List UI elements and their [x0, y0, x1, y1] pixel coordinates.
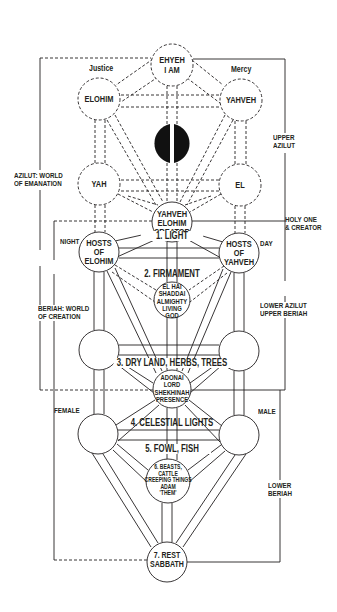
label-day: DAY: [260, 240, 273, 248]
path-label-light: 1. LIGHT: [141, 231, 203, 241]
label-female: FEMALE: [54, 407, 80, 415]
elohim-label: ELOHIM: [80, 94, 119, 104]
ehyeh-label: EHYEH I AM: [153, 55, 192, 74]
label-azilut-world: AZILUT: WORLD OF EMANATION: [14, 172, 63, 188]
label-holy-one: HOLY ONE & CREATOR: [285, 216, 322, 232]
hosts-elohim-label: HOSTS OF ELOHIM: [80, 238, 119, 266]
path-label-dry-land: 3. DRY LAND, HERBS, TREES: [114, 358, 231, 368]
label-justice: Justice: [89, 64, 113, 73]
label-night: NIGHT: [60, 238, 79, 246]
path-label-celestial: 4. CELESTIAL LIGHTS: [125, 418, 219, 428]
adonai-label: ADONAI LORD SHEKHINAH PRESENCE: [153, 374, 192, 403]
label-male: MALE: [258, 408, 276, 416]
el-hai-label: EL HAI SHADDAI ALMIGHTY LIVING GOD: [153, 283, 192, 320]
path-label-firmament: 2. FIRMAMENT: [133, 269, 211, 279]
daat-split-circle-icon: [154, 124, 189, 163]
yah-label: YAH: [80, 179, 119, 189]
label-lower-beriah: LOWER BERIAH: [268, 482, 292, 498]
path-label-fowl: 5. FOWL, FISH: [133, 444, 211, 454]
hosts-yahveh-label: HOSTS OF YAHVEH: [220, 239, 259, 267]
el-label: EL: [221, 180, 260, 190]
sabbath-label: 7. REST SABBATH: [148, 551, 187, 569]
label-mercy: Mercy: [231, 65, 251, 74]
yahveh-top-label: YAHVEH: [222, 95, 261, 105]
node-right-lower: [219, 415, 259, 455]
label-beriah-world: BERIAH: WORLD OF CREATION: [38, 305, 89, 321]
beasts-label: 6. BEASTS, CATTLE CREEPING THINGS ADAM '…: [145, 464, 192, 497]
label-lower-azilut: LOWER AZILUT UPPER BERIAH: [260, 302, 307, 318]
label-upper-azilut: UPPER AZILUT: [273, 134, 295, 150]
node-left-lower: [78, 414, 118, 454]
